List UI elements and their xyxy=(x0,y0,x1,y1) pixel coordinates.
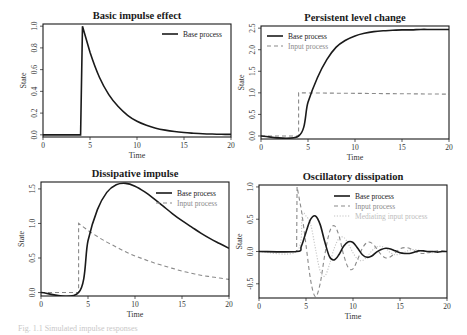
x-tick-label: 15 xyxy=(398,143,406,152)
x-tick-label: 5 xyxy=(304,302,308,311)
x-tick-label: 20 xyxy=(445,143,453,152)
y-axis-label: State xyxy=(17,231,26,247)
x-tick-label: 0 xyxy=(41,141,45,150)
x-tick-label: 10 xyxy=(131,300,139,309)
figure-canvas: Basic impulse effect05101520Time0.00.20.… xyxy=(0,0,467,335)
y-tick-label: 0.0 xyxy=(30,130,39,140)
y-axis-label: State xyxy=(235,233,244,249)
y-tick-label: 1.0 xyxy=(28,219,37,229)
x-axis-label: Time xyxy=(127,310,144,319)
x-tick-label: 15 xyxy=(178,300,186,309)
x-axis: 05101520Time xyxy=(41,137,235,160)
series-group xyxy=(259,187,447,297)
x-axis: 05101520Time xyxy=(39,296,233,319)
x-axis-label: Time xyxy=(345,312,362,321)
panel-basic-impulse-effect: Basic impulse effect05101520Time0.00.20.… xyxy=(19,10,235,160)
x-axis: 05101520Time xyxy=(259,139,453,162)
y-axis: -0.50.00.51.0State xyxy=(235,182,259,290)
y-tick-label: -0.5 xyxy=(246,278,255,290)
figure: Basic impulse effect05101520Time0.00.20.… xyxy=(0,0,467,335)
legend-label: Input process xyxy=(288,42,328,51)
legend-label: Base process xyxy=(288,32,327,41)
y-axis: 0.00.51.01.5State xyxy=(17,184,41,297)
x-tick-label: 15 xyxy=(180,141,188,150)
x-tick-label: 0 xyxy=(39,300,43,309)
x-axis: 05101520Time xyxy=(257,298,451,321)
x-tick-label: 15 xyxy=(396,302,404,311)
series-group xyxy=(43,26,231,135)
legend-label: Input process xyxy=(177,199,217,208)
y-tick-label: 2.0 xyxy=(248,45,257,55)
y-tick-label: 0.2 xyxy=(30,108,39,118)
y-tick-label: 1.0 xyxy=(248,88,257,98)
x-tick-label: 0 xyxy=(259,143,263,152)
y-tick-label: 1.0 xyxy=(30,21,39,31)
x-tick-label: 20 xyxy=(227,141,235,150)
y-tick-label: 0.5 xyxy=(248,109,257,119)
series-line-mediating-input-process xyxy=(259,213,447,276)
plot-frame xyxy=(43,24,231,137)
y-tick-label: 1.5 xyxy=(28,184,37,194)
y-tick-label: 2.5 xyxy=(248,23,257,33)
x-axis-label: Time xyxy=(347,153,364,162)
x-axis-label: Time xyxy=(129,151,146,160)
x-tick-label: 5 xyxy=(306,143,310,152)
x-tick-label: 0 xyxy=(257,302,261,311)
x-tick-label: 10 xyxy=(349,302,357,311)
panel-persistent-level-change: Persistent level change05101520Time0.00.… xyxy=(237,12,453,162)
legend-label: Base process xyxy=(183,30,222,39)
y-tick-label: 0.0 xyxy=(246,247,255,257)
x-tick-label: 20 xyxy=(443,302,451,311)
y-tick-label: 0.0 xyxy=(28,288,37,298)
y-tick-label: 0.6 xyxy=(30,65,39,75)
plot-frame xyxy=(259,185,447,298)
legend: Base processInput processMediating input… xyxy=(334,192,428,221)
series-line-input-process xyxy=(261,93,449,136)
series-line-base-process xyxy=(43,26,231,135)
chart-title: Oscillatory dissipation xyxy=(303,171,404,182)
y-axis-label: State xyxy=(19,72,28,88)
legend-label: Input process xyxy=(355,202,395,211)
y-tick-label: 1.5 xyxy=(248,66,257,76)
y-axis-label: State xyxy=(237,74,246,90)
legend-label: Base process xyxy=(355,192,394,201)
y-tick-label: 0.5 xyxy=(28,253,37,263)
chart-title: Basic impulse effect xyxy=(93,10,182,21)
legend: Base processInput process xyxy=(267,32,328,51)
x-tick-label: 5 xyxy=(88,141,92,150)
x-tick-label: 10 xyxy=(351,143,359,152)
chart-title: Persistent level change xyxy=(304,12,406,23)
chart-title: Dissipative impulse xyxy=(92,168,179,179)
y-axis: 0.00.20.40.60.81.0State xyxy=(19,21,43,139)
y-tick-label: 0.5 xyxy=(246,214,255,224)
panel-dissipative-impulse: Dissipative impulse05101520Time0.00.51.0… xyxy=(17,168,233,319)
y-tick-label: 1.0 xyxy=(246,182,255,192)
y-axis: 0.00.51.01.52.02.5State xyxy=(237,23,261,140)
legend-label: Mediating input process xyxy=(355,212,428,221)
y-tick-label: 0.4 xyxy=(30,86,39,96)
legend: Base processInput process xyxy=(156,189,217,208)
x-tick-label: 10 xyxy=(133,141,141,150)
legend-label: Base process xyxy=(177,189,216,198)
y-tick-label: 0.0 xyxy=(248,131,257,141)
legend: Base process xyxy=(162,30,222,39)
x-tick-label: 20 xyxy=(225,300,233,309)
panel-oscillatory-dissipation: Oscillatory dissipation05101520Time-0.50… xyxy=(235,171,451,321)
x-tick-label: 5 xyxy=(86,300,90,309)
y-tick-label: 0.8 xyxy=(30,43,39,53)
figure-caption: Fig. 1.1 Simulated impulse responses xyxy=(18,324,138,333)
